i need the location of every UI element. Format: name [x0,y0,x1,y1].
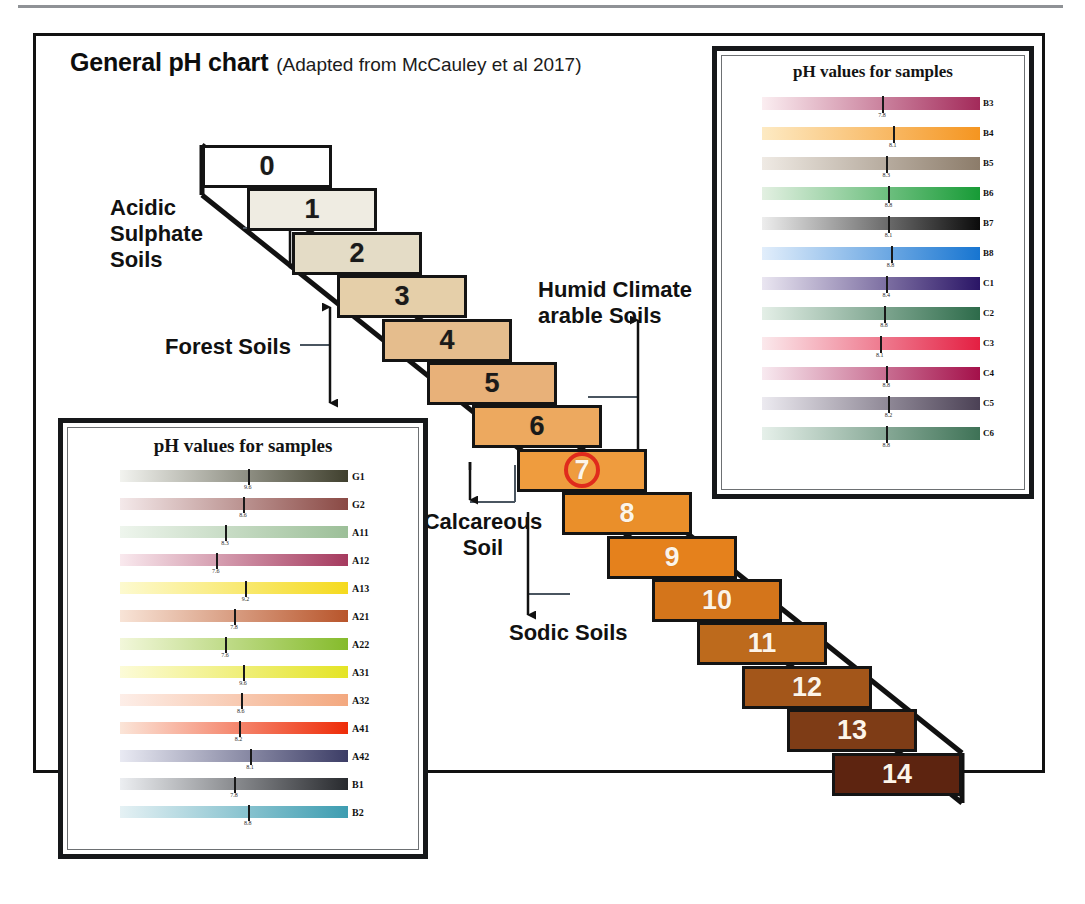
sample-gradient-bar-A41: 8.2 [120,722,348,734]
annotation-sodic-soils: Sodic Soils [509,620,628,646]
sample-gradient [762,367,980,380]
sample-row: 8.2A41 [120,714,418,742]
sample-gradient-bar-C3: 8.1 [762,337,980,350]
sample-code-label: B5 [983,158,994,168]
sample-gradient [120,498,348,510]
sample-code-label: G2 [352,499,365,510]
sample-row: 8.1B4 [762,118,1024,148]
sample-gradient-bar-G1: 9.6 [120,470,348,482]
sample-code-label: C3 [983,338,994,348]
sample-code-label: C5 [983,398,994,408]
sample-row: 8.8C2 [762,298,1024,328]
chart-subtitle: (Adapted from McCauley et al 2017) [276,54,581,75]
sample-ph-value: 8.8 [244,820,252,826]
sample-ph-marker [880,336,882,353]
sample-panel-bottom-left-title: pH values for samples [68,435,418,457]
sample-row: 9.2A13 [120,574,418,602]
page-top-rule [18,5,1063,8]
sample-code-label: A22 [352,639,369,650]
sample-row: 8.8C4 [762,358,1024,388]
ph-step-11: 11 [697,622,827,665]
ph-step-label: 2 [349,240,364,267]
sample-code-label: C4 [983,368,994,378]
sample-panel-bottom-left: pH values for samples 9.6G18.6G28.3A117.… [58,418,428,859]
annotation-calcareous-soil: Calcareous Soil [413,509,553,561]
sample-gradient [762,127,980,140]
sample-row: 8.1C3 [762,328,1024,358]
sample-code-label: B3 [983,98,994,108]
ph-step-9: 9 [607,536,737,579]
sample-row-list-top-right: 7.8B38.1B48.3B58.8B68.1B78.8B88.4C18.8C2… [722,88,1024,448]
ph-step-14: 14 [832,753,962,796]
sample-panel-top-right: pH values for samples 7.8B38.1B48.3B58.8… [712,46,1034,499]
sample-ph-marker [234,777,236,793]
sample-row: 8.8B2 [120,798,418,826]
sample-ph-marker [891,246,893,263]
sample-gradient [120,582,348,594]
sample-ph-marker [886,156,888,173]
sample-code-label: C1 [983,278,994,288]
sample-ph-marker [888,396,890,413]
sample-code-label: C6 [983,428,994,438]
sample-gradient [120,694,348,706]
ph-step-5: 5 [427,362,557,405]
sample-code-label: B1 [352,779,364,790]
sample-gradient-bar-C1: 8.4 [762,277,980,290]
sample-gradient [120,638,348,650]
sample-gradient [762,397,980,410]
sample-gradient [120,554,348,566]
sample-panel-bottom-left-inner: pH values for samples 9.6G18.6G28.3A117.… [67,427,419,850]
sample-code-label: A41 [352,723,369,734]
sample-code-label: B8 [983,248,994,258]
sample-code-label: B7 [983,218,994,228]
sample-gradient [762,307,980,320]
ph-step-3: 3 [337,275,467,318]
sample-gradient-bar-C6: 8.8 [762,427,980,440]
ph-step-8: 8 [562,492,692,535]
sample-panel-top-right-inner: pH values for samples 7.8B38.1B48.3B58.8… [721,55,1025,490]
sample-ph-value: 8.1 [876,352,884,358]
ph-step-label: 12 [792,674,822,701]
sample-gradient [762,157,980,170]
sample-ph-value: 8.8 [880,322,888,328]
sample-code-label: A21 [352,611,369,622]
sample-code-label: A11 [352,527,369,538]
sample-ph-marker [225,637,227,653]
sample-gradient [120,750,348,762]
ph-step-6: 6 [472,405,602,448]
sample-code-label: A31 [352,667,369,678]
annotation-humid-climate-arable-soils: Humid Climate arable Soils [538,277,692,329]
sample-ph-value: 8.3 [883,172,891,178]
sample-row: 8.4C1 [762,268,1024,298]
sample-ph-marker [250,749,252,765]
sample-code-label: C2 [983,308,994,318]
sample-ph-marker [248,805,250,821]
sample-ph-marker [239,721,241,737]
sample-gradient-bar-A12: 7.6 [120,554,348,566]
sample-ph-value: 8.8 [887,262,895,268]
sample-ph-value: 8.1 [889,142,897,148]
ph-step-13: 13 [787,709,917,752]
sample-gradient-bar-C2: 8.8 [762,307,980,320]
ph-step-label: 3 [394,283,409,310]
page-title: General pH chart(Adapted from McCauley e… [70,48,581,77]
ph-step-label: 4 [439,327,454,354]
sample-gradient-bar-A13: 9.2 [120,582,348,594]
sample-row-list-bottom-left: 9.6G18.6G28.3A117.6A129.2A137.8A217.6A22… [68,462,418,826]
sample-gradient [120,722,348,734]
ph-step-12: 12 [742,666,872,709]
ph-step-label: 0 [259,153,274,180]
ph-step-label: 11 [748,630,777,657]
ph-step-label: 6 [529,413,544,440]
annotation-forest-soils: Forest Soils [165,334,291,360]
sample-gradient-bar-B2: 8.8 [120,806,348,818]
sample-row: 8.6G2 [120,490,418,518]
sample-row: 8.2C5 [762,388,1024,418]
sample-ph-marker [243,665,245,681]
annotation-acidic-sulphate-soils: Acidic Sulphate Soils [110,195,203,273]
sample-row: 7.6A22 [120,630,418,658]
sample-code-label: G1 [352,471,365,482]
sample-ph-marker [886,366,888,383]
sample-row: 8.1A42 [120,742,418,770]
ph-step-label: 7 [574,457,589,484]
